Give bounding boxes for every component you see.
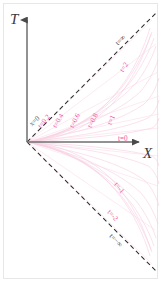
- x-axis-label: X: [143, 146, 152, 161]
- t-axis-label: T: [10, 12, 18, 27]
- spacetime-diagram: T X t=∞ t=−∞ x=0 t=0.2 t=0.4 t=0.6 t=0.8…: [0, 0, 162, 283]
- lightcone-lower-line: [27, 142, 157, 272]
- ray-label-t-0: t=0: [118, 136, 128, 143]
- diagram-canvas: [0, 0, 162, 283]
- hyperbola-curves-lower: [27, 142, 159, 256]
